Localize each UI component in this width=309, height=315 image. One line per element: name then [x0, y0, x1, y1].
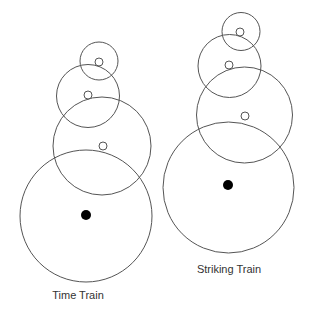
striking-train-label: Striking Train — [197, 263, 261, 275]
striking-train-fly-wheel-arbor — [236, 28, 244, 36]
striking-train-second-wheel-arbor — [241, 112, 249, 120]
time-train-escape-wheel-arbor — [95, 58, 103, 66]
time-train-label: Time Train — [52, 289, 104, 301]
time-train-main-arbor-dot — [81, 210, 91, 220]
time-train-group: Time Train — [20, 42, 152, 301]
striking-train-main-arbor-dot — [223, 180, 233, 190]
striking-train-group: Striking Train — [163, 13, 294, 276]
striking-train-third-wheel-arbor — [225, 61, 233, 69]
gear-train-diagram: Time Train Striking Train — [0, 0, 309, 315]
time-train-second-wheel-arbor — [99, 142, 107, 150]
time-train-third-wheel-arbor — [84, 91, 92, 99]
